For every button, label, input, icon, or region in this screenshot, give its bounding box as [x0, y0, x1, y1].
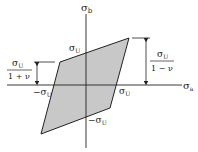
right-fraction-denominator: 1 − ν: [151, 64, 173, 73]
diagram-canvas: σb σa σU −σU −σU σU σU 1 + ν σU 1 − ν: [0, 0, 198, 152]
left-fraction-denominator: 1 + ν: [8, 72, 30, 81]
x-axis-label: σa: [183, 80, 194, 92]
left-fraction-numerator: σU: [12, 58, 23, 69]
yield-surface-diagram: σb σa σU −σU −σU σU σU 1 + ν σU 1 − ν: [0, 0, 198, 152]
left-intercept-label: −σU: [33, 87, 52, 98]
top-intercept-label: σU: [69, 43, 80, 54]
right-intercept-label: σU: [119, 86, 130, 97]
right-fraction-numerator: σU: [157, 49, 168, 60]
yield-region: [41, 38, 129, 134]
bottom-intercept-label: −σU: [88, 115, 107, 126]
y-axis-label: σb: [81, 2, 93, 15]
